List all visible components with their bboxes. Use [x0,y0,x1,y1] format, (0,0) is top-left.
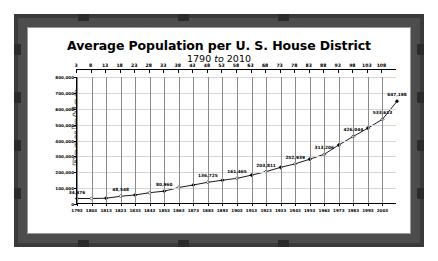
congress-tick-label: 73 [276,63,282,68]
frame-notch [14,140,21,151]
vertical-gridline [237,77,238,203]
congress-tick-label: 23 [131,63,137,68]
line-chart: Average Population per U. S. House Distr… [28,28,410,233]
congress-tick-mark [265,70,266,73]
congress-tick-mark [338,70,339,73]
x-axis-tick-mark [382,203,383,206]
vertical-gridline [324,77,325,203]
frame-notch [417,140,424,151]
x-axis-tick-mark [150,203,151,206]
frame-notch [78,14,89,21]
frame-notch [417,92,424,103]
congress-tick-label: 3 [74,63,77,68]
congress-tick-label: 38 [175,63,181,68]
data-point-label: 647,198 [387,92,407,97]
vertical-gridline [222,77,223,203]
vertical-gridline [135,77,136,203]
congress-tick-mark [163,70,164,73]
x-axis-tick-label: 1963 [319,208,330,213]
vertical-gridline [208,77,209,203]
x-axis-tick-mark [339,203,340,206]
congress-tick-mark [251,70,252,73]
congress-tick-mark [207,70,208,73]
frame-notch [78,240,89,247]
congress-tick-mark [236,70,237,73]
x-axis-tick-mark [77,203,78,206]
congress-tick-mark [178,70,179,73]
x-axis-tick-label: 1983 [348,208,359,213]
vertical-gridline [77,77,78,203]
data-point-label: 426,044 [344,127,364,132]
vertical-gridline [252,77,253,203]
x-axis-tick-mark [121,203,122,206]
vertical-gridline [368,77,369,203]
x-axis-tick-mark [164,203,165,206]
slide-frame-border: Average Population per U. S. House Distr… [14,14,424,247]
x-axis-tick-label: 1953 [304,208,315,213]
data-point-label: 34,476 [69,190,86,195]
x-axis-tick-mark [295,203,296,206]
data-point-label: 48,548 [112,187,129,192]
y-axis-tick-label: 800,000 [55,75,74,80]
congress-tick-mark [221,70,222,73]
x-axis-tick-mark [324,203,325,206]
congress-tick-mark [105,70,106,73]
y-axis-tick-label: 200,000 [55,170,74,175]
frame-notch [178,240,189,247]
data-point-label: 203,811 [256,163,276,168]
plot-area: 0100,000200,000300,000400,000500,000600,… [76,77,396,204]
x-axis-tick-label: 1853 [159,208,170,213]
frame-notch [14,188,21,199]
vertical-gridline [382,77,383,203]
x-axis-tick-label: 1943 [289,208,300,213]
y-axis-tick-label: 700,000 [55,90,74,95]
frame-notch [14,44,21,55]
x-axis-tick-mark [266,203,267,206]
frame-notch [278,240,289,247]
congress-tick-mark [294,70,295,73]
congress-tick-mark [192,70,193,73]
vertical-gridline [150,77,151,203]
congress-tick-label: 48 [204,63,210,68]
frame-notch [14,92,21,103]
frame-notch [417,188,424,199]
congress-tick-mark [120,70,121,73]
x-axis-tick-label: 1873 [188,208,199,213]
x-axis-tick-mark [252,203,253,206]
congress-tick-label: 93 [335,63,341,68]
congress-tick-label: 28 [146,63,152,68]
data-point-label: 136,725 [198,173,218,178]
vertical-gridline [281,77,282,203]
congress-tick-mark [323,70,324,73]
congress-tick-mark [149,70,150,73]
x-axis-tick-mark [237,203,238,206]
x-axis-tick-mark [310,203,311,206]
congress-tick-mark [367,70,368,73]
congress-tick-label: 108 [377,63,387,68]
congress-tick-label: 98 [349,63,355,68]
congress-tick-label: 63 [247,63,253,68]
x-axis-tick-label: 1833 [129,208,140,213]
congress-tick-label: 8 [89,63,92,68]
x-axis-tick-mark [368,203,369,206]
x-axis-tick-mark [208,203,209,206]
x-axis-tick-label: 1803 [86,208,97,213]
x-axis-tick-label: 1993 [362,208,373,213]
frame-notch [278,14,289,21]
data-point-label: 313,206 [314,145,334,150]
congress-tick-label: 58 [233,63,239,68]
x-axis-tick-label: 1883 [202,208,213,213]
congress-tick-label: 43 [189,63,195,68]
x-axis-tick-label: 1893 [217,208,228,213]
vertical-gridline [121,77,122,203]
congress-tick-mark [309,70,310,73]
vertical-gridline [92,77,93,203]
congress-tick-label: 88 [320,63,326,68]
x-axis-tick-label: 1813 [100,208,111,213]
data-point-label: 533,613 [373,110,393,115]
y-axis-tick-label: 500,000 [55,122,74,127]
x-axis-tick-label: 1793 [71,208,82,213]
x-axis-tick-mark [135,203,136,206]
congress-tick-label: 13 [102,63,108,68]
x-axis-tick-label: 1863 [173,208,184,213]
